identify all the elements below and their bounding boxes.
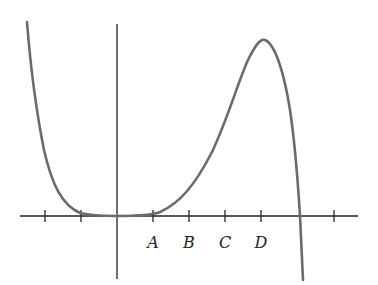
label-a: A [145,233,159,252]
function-graph: A B C D [0,0,378,285]
label-d: D [254,233,268,252]
label-c: C [219,233,231,252]
label-b: B [182,233,195,252]
